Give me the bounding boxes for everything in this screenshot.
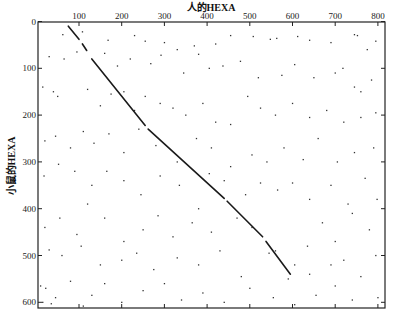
data-point bbox=[93, 143, 94, 144]
data-point bbox=[44, 227, 45, 228]
data-point bbox=[292, 182, 293, 183]
data-point bbox=[181, 299, 182, 300]
data-point bbox=[87, 203, 88, 204]
data-point bbox=[177, 257, 178, 258]
data-point bbox=[309, 274, 310, 275]
data-point bbox=[107, 40, 108, 41]
data-point bbox=[157, 215, 158, 216]
y-axis-title: 小鼠的HEXA bbox=[5, 136, 17, 197]
data-point bbox=[270, 39, 271, 40]
data-point bbox=[273, 297, 274, 298]
data-point bbox=[74, 171, 75, 172]
y-tick-label: 500 bbox=[23, 251, 37, 261]
data-point bbox=[62, 34, 63, 35]
data-point bbox=[55, 136, 56, 137]
data-point bbox=[87, 89, 88, 90]
data-point bbox=[104, 217, 105, 218]
data-point bbox=[309, 40, 310, 41]
data-point bbox=[123, 241, 124, 242]
data-point bbox=[335, 285, 336, 286]
data-point bbox=[183, 72, 184, 73]
data-point bbox=[177, 161, 178, 162]
data-point bbox=[198, 208, 199, 209]
data-point bbox=[83, 305, 84, 306]
y-tick-label: 400 bbox=[23, 204, 37, 214]
data-point bbox=[251, 154, 252, 155]
data-point bbox=[49, 249, 50, 250]
data-point bbox=[57, 96, 58, 97]
data-point bbox=[150, 63, 151, 64]
diagonal-segment bbox=[68, 26, 79, 39]
data-point bbox=[108, 133, 109, 134]
data-point bbox=[260, 107, 261, 108]
data-point bbox=[313, 77, 314, 78]
data-point bbox=[354, 34, 355, 35]
data-point bbox=[277, 189, 278, 190]
data-point bbox=[230, 35, 231, 36]
data-point bbox=[160, 175, 161, 176]
data-point bbox=[140, 194, 141, 195]
data-point bbox=[202, 103, 203, 104]
data-point bbox=[59, 217, 60, 218]
data-point bbox=[55, 297, 56, 298]
data-point bbox=[360, 276, 361, 277]
data-point bbox=[294, 264, 295, 265]
y-tick-label: 300 bbox=[23, 157, 37, 167]
data-point bbox=[121, 260, 122, 261]
data-point bbox=[83, 131, 84, 132]
data-point bbox=[337, 161, 338, 162]
y-tick-label: 600 bbox=[23, 297, 37, 307]
data-point bbox=[100, 264, 101, 265]
data-point bbox=[106, 171, 107, 172]
data-point bbox=[266, 161, 267, 162]
data-point bbox=[42, 302, 43, 303]
diagonal-segment bbox=[148, 129, 224, 198]
data-point bbox=[61, 255, 62, 256]
data-point bbox=[53, 91, 54, 92]
data-point bbox=[240, 61, 241, 62]
data-point bbox=[357, 35, 358, 36]
data-point bbox=[215, 43, 216, 44]
data-point bbox=[123, 91, 124, 92]
data-point bbox=[91, 295, 92, 296]
data-point bbox=[100, 105, 101, 106]
data-point bbox=[253, 36, 254, 37]
data-point bbox=[51, 303, 52, 304]
data-point bbox=[44, 140, 45, 141]
data-point bbox=[245, 194, 246, 195]
data-point bbox=[236, 217, 237, 218]
data-point bbox=[70, 147, 71, 148]
data-point bbox=[330, 185, 331, 186]
data-point bbox=[145, 96, 146, 97]
data-point bbox=[198, 54, 199, 55]
data-point bbox=[307, 246, 308, 247]
data-point bbox=[318, 138, 319, 139]
data-point bbox=[330, 264, 331, 265]
data-point bbox=[42, 86, 43, 87]
data-point bbox=[142, 290, 143, 291]
y-tick-label: 100 bbox=[23, 63, 37, 73]
data-point bbox=[209, 173, 210, 174]
diagonal-segment bbox=[82, 44, 86, 51]
data-point bbox=[375, 112, 376, 113]
x-tick-label: 200 bbox=[115, 11, 129, 21]
data-point bbox=[371, 79, 372, 80]
data-point bbox=[258, 77, 259, 78]
data-point bbox=[297, 36, 298, 37]
data-point bbox=[326, 110, 327, 111]
data-point bbox=[352, 213, 353, 214]
data-point bbox=[367, 49, 368, 50]
axis-ticks: 1002003004005006007008000100200300400500… bbox=[23, 11, 386, 308]
data-point bbox=[202, 292, 203, 293]
data-point bbox=[194, 45, 195, 46]
data-point bbox=[376, 199, 377, 200]
x-tick-label: 100 bbox=[72, 11, 86, 21]
data-point bbox=[160, 103, 161, 104]
data-point bbox=[172, 236, 173, 237]
plot-frame bbox=[38, 22, 385, 308]
data-point bbox=[185, 115, 186, 116]
data-point bbox=[369, 229, 370, 230]
data-point bbox=[40, 285, 41, 286]
data-point bbox=[81, 246, 82, 247]
data-point bbox=[247, 96, 248, 97]
